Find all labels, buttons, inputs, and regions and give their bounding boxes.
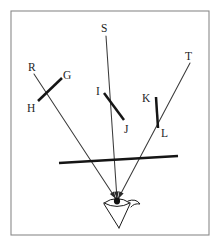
label-T: T — [185, 51, 192, 63]
label-J: J — [124, 124, 128, 136]
label-L: L — [161, 128, 168, 140]
label-I: I — [96, 86, 100, 98]
label-R: R — [28, 62, 36, 74]
label-K: K — [142, 93, 150, 105]
figure-border — [11, 11, 209, 235]
eye-pupil — [114, 198, 120, 205]
label-S: S — [101, 23, 107, 35]
label-H: H — [27, 103, 35, 115]
label-G: G — [63, 70, 71, 82]
ray-diagram-figure: RGHSIJKLT — [0, 0, 221, 247]
diagram-canvas — [0, 0, 221, 247]
